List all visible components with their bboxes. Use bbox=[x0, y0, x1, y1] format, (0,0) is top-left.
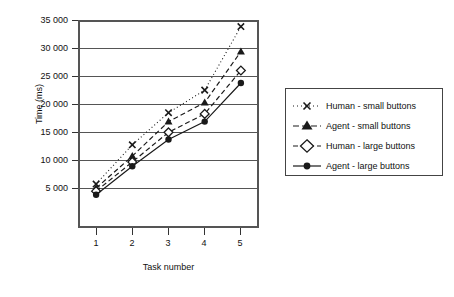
legend-item-agent-large-buttons: Agent - large buttons bbox=[292, 156, 436, 176]
x-tick-mark bbox=[204, 228, 205, 235]
data-point bbox=[201, 99, 209, 106]
data-point bbox=[202, 118, 208, 124]
legend-label: Agent - small buttons bbox=[322, 121, 411, 131]
x-tick-label-2: 2 bbox=[122, 239, 142, 248]
filled-triangle-marker-icon bbox=[292, 117, 322, 135]
legend-item-human-large-buttons: Human - large buttons bbox=[292, 136, 436, 156]
data-point bbox=[238, 80, 244, 86]
x-axis-title: Task number bbox=[78, 262, 259, 272]
x-tick-mark bbox=[240, 228, 241, 235]
y-tick-label-5000: 5 000 bbox=[45, 184, 68, 193]
y-tick-label-30000: 30 000 bbox=[40, 44, 68, 53]
y-tick-label-15000: 15 000 bbox=[40, 128, 68, 137]
y-tick-label-35000: 35 000 bbox=[40, 16, 68, 25]
data-series-layer bbox=[78, 20, 259, 228]
legend-item-human-small-buttons: Human - small buttons bbox=[292, 96, 436, 116]
data-point bbox=[238, 23, 244, 29]
open-diamond-marker-icon bbox=[292, 137, 322, 155]
data-point bbox=[165, 136, 171, 142]
legend-label: Agent - large buttons bbox=[322, 161, 410, 171]
x-tick-label-3: 3 bbox=[158, 239, 178, 248]
y-tick-label-10000: 10 000 bbox=[40, 156, 68, 165]
data-point bbox=[93, 192, 99, 198]
legend-label: Human - small buttons bbox=[322, 101, 416, 111]
filled-circle-marker-icon bbox=[292, 157, 322, 175]
data-point bbox=[165, 118, 173, 125]
data-point bbox=[129, 142, 135, 148]
x-tick-label-1: 1 bbox=[86, 239, 106, 248]
legend-item-agent-small-buttons: Agent - small buttons bbox=[292, 116, 436, 136]
x-tick-label-4: 4 bbox=[194, 239, 214, 248]
data-point bbox=[237, 47, 245, 54]
y-tick-label-20000: 20 000 bbox=[40, 100, 68, 109]
legend-label: Human - large buttons bbox=[322, 141, 415, 151]
x-tick-label-5: 5 bbox=[230, 239, 250, 248]
x-cross-marker-icon bbox=[292, 97, 322, 115]
chart-root: Time (ms) 35 000 30 000 25 000 20 000 15… bbox=[0, 0, 454, 297]
data-point bbox=[165, 110, 171, 116]
data-point bbox=[202, 87, 208, 93]
data-point bbox=[129, 163, 135, 169]
y-tick-label-25000: 25 000 bbox=[40, 72, 68, 81]
x-tick-mark bbox=[168, 228, 169, 235]
chart-legend: Human - small buttons Agent - small butt… bbox=[285, 88, 443, 176]
x-tick-mark bbox=[132, 228, 133, 235]
series-line bbox=[96, 27, 241, 184]
x-tick-mark bbox=[96, 228, 97, 235]
